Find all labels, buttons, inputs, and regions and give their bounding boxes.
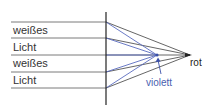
violet-focus-point <box>155 53 158 56</box>
violet-pointer-arrow <box>156 58 162 75</box>
label-rot: rot <box>190 57 202 68</box>
label-licht-2: Licht <box>13 74 36 86</box>
chromatic-aberration-diagram: weißes Licht weißes Licht rot violett <box>0 0 213 108</box>
label-violett: violett <box>146 77 172 88</box>
label-weisses-2: weißes <box>12 57 48 69</box>
label-weisses-1: weißes <box>12 24 48 36</box>
label-licht-1: Licht <box>13 41 36 53</box>
